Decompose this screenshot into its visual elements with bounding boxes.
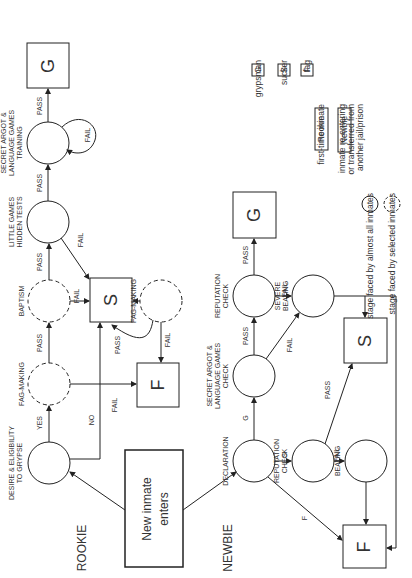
edge-fail: FAIL [77,233,84,248]
edge-pass: PASS [36,253,43,271]
label-little-games: LITTLE GAMESHIDDEN TESTS [8,196,23,248]
label-reputation-check-2: REPUTATIONCHECK [273,439,288,483]
edge-no: NO [88,414,95,425]
label-argot-check: SECRET ARGOT &LANGUAGE GAMESCHECK [206,343,229,409]
start-text-2: enters [157,492,171,525]
legend-s-text: sucker [279,60,289,85]
outcome-letter: F [354,542,374,553]
label-baptism: BAPTISM [18,285,25,316]
label-fag-making-2: FAG-MAKING [130,279,137,323]
legend-g-text: grypsman [253,60,263,98]
outcome-letter: G [38,59,58,73]
node-desire [28,442,70,484]
node-severe-beating [292,275,334,317]
node-fag-making-2 [140,280,182,322]
legend-f-text: fag [302,60,312,72]
edge-pass: PASS [242,327,249,345]
edge-pass: PASS [324,381,331,399]
outcome-letter: S [101,294,121,306]
diagram-canvas: DESIRE & ELIGIBILITYTO GRYPSEFAG-MAKINGB… [0,0,412,578]
label-fag-making-1: FAG-MAKING [18,362,25,406]
outcome-letter: S [355,335,375,347]
node-fag-making-1 [28,363,70,405]
label-desire: DESIRE & ELIGIBILITYTO GRYPSE [8,426,23,500]
node-baptism [28,280,70,322]
edge-pass: PASS [36,174,43,192]
edge-g: G [242,415,249,420]
edge-fail: FAIL [84,128,91,143]
edge-pass: PASS [114,336,121,354]
edge-fail: FAIL [73,289,80,304]
node-reputation-check-2 [292,440,334,482]
edge-f: F [301,516,308,520]
start-text-1: New inmate [140,477,154,541]
node-argot-check [233,355,275,397]
node-declaration [233,440,275,482]
label-reputation-check-1: REPUTATIONCHECK [214,274,229,318]
start-box [125,450,183,567]
legend-rookie-text: first-time inmate [316,104,326,165]
group-newbie: NEWBIE [221,524,235,571]
legend-dashed-text: stage faced by selected inmates [387,193,397,314]
edge-fail: FAIL [164,333,171,348]
edge-fail: FAIL [286,338,293,353]
edge-s: S [281,452,288,457]
edge-yes: YES [36,416,43,430]
grypsing-flow-diagram: DESIRE & ELIGIBILITYTO GRYPSEFAG-MAKINGB… [0,0,412,578]
label-argot-training: SECRET ARGOT &LANGUAGE GAMESTRAINING [0,110,23,176]
edge-fail: FAIL [111,398,118,413]
group-rookie: ROOKIE [75,525,89,572]
label-declaration: DECLARATION [222,436,229,485]
node-beating [345,440,387,482]
outcome-letter: G [244,208,264,222]
edge-pass: PASS [36,97,43,115]
edge-fail: FAIL [281,283,288,298]
node-little-games [27,201,69,243]
legend-newbie-text: inmate re-enteringor transferred fromano… [337,104,365,175]
edge-fail: FAIL [333,448,340,463]
edge-pass: PASS [36,334,43,352]
node-reputation-check-1 [233,275,275,317]
legend-solid-text: stage faced by almost all inmates [365,193,375,319]
node-argot-training [27,122,69,164]
edge-pass: PASS [242,246,249,264]
outcome-letter: F [148,380,168,391]
